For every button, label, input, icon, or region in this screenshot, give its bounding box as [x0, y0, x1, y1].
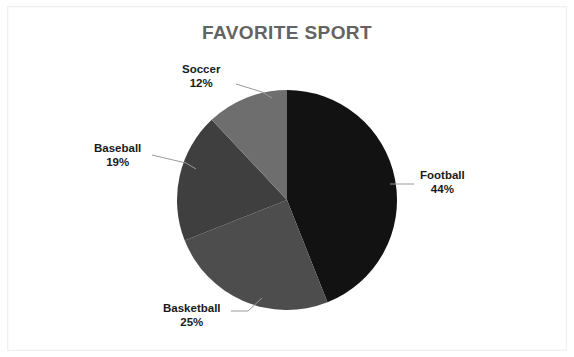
- slice-label-baseball-name: Baseball: [94, 141, 141, 155]
- slice-label-football: Football 44%: [420, 168, 465, 196]
- slice-label-basketball: Basketball 25%: [163, 301, 221, 329]
- chart-screenshot: FAVORITE SPORT Soccer 12% Baseball 19% F…: [0, 0, 574, 357]
- slice-label-soccer: Soccer 12%: [182, 62, 220, 90]
- pie-slice-group: [177, 90, 397, 310]
- slice-label-soccer-percent: 12%: [182, 76, 220, 90]
- slice-label-baseball-percent: 19%: [94, 155, 141, 169]
- slice-label-basketball-name: Basketball: [163, 301, 221, 315]
- pie-chart-area: Soccer 12% Baseball 19% Football 44% Bas…: [0, 0, 574, 357]
- slice-label-baseball: Baseball 19%: [94, 141, 141, 169]
- slice-label-football-percent: 44%: [420, 182, 465, 196]
- slice-label-basketball-percent: 25%: [163, 315, 221, 329]
- pie-chart-svg: [0, 0, 574, 357]
- slice-label-soccer-name: Soccer: [182, 62, 220, 76]
- slice-label-football-name: Football: [420, 168, 465, 182]
